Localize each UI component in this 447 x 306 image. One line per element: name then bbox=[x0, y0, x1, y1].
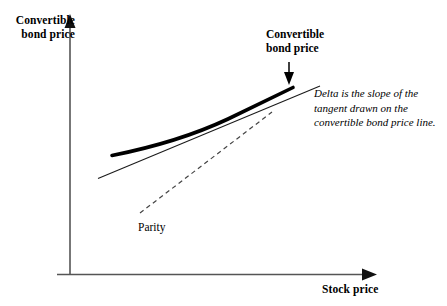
tangent-line bbox=[98, 86, 320, 179]
convertible-bond-delta-diagram: Convertible bond price Stock price Conve… bbox=[0, 0, 447, 306]
parity-label: Parity bbox=[138, 221, 165, 235]
x-axis-label: Stock price bbox=[322, 283, 378, 297]
convertible-bond-price-curve bbox=[112, 88, 293, 156]
delta-explanation-note: Delta is the slope of the tangent drawn … bbox=[314, 86, 446, 130]
y-axis-label: Convertible bond price bbox=[0, 14, 75, 41]
diagram-canvas bbox=[0, 0, 447, 306]
x-axis-arrowhead bbox=[362, 269, 377, 281]
convertible-bond-price-callout-label: Convertible bond price bbox=[266, 28, 324, 55]
callout-arrow-head bbox=[284, 72, 294, 85]
